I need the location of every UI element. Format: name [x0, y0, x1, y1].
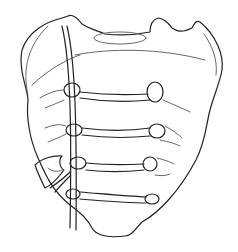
illustration-canvas: sacrum line drawing — [0, 0, 238, 252]
sacrum-drawing — [0, 0, 238, 252]
